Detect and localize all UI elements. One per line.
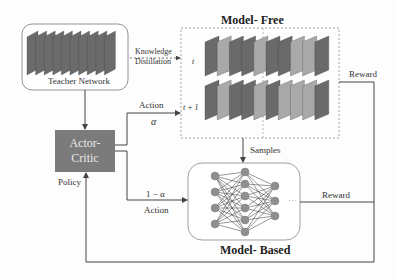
- neuron-node: [211, 204, 219, 212]
- feature-map-layer: [254, 36, 268, 76]
- feature-map-layer: [205, 36, 219, 76]
- feature-map-layer: [290, 80, 304, 120]
- feature-map-layer: [278, 80, 292, 120]
- feature-map-layer: [242, 80, 256, 120]
- row-t1-label: t + 1: [183, 104, 199, 112]
- row-t-label: t: [192, 58, 194, 66]
- action-upper-label: Action: [139, 101, 164, 110]
- feature-map-layer: [242, 36, 256, 76]
- model-free-layers: [205, 36, 329, 120]
- neuron-node: [241, 180, 249, 188]
- distillation-label-line1: Knowledge: [135, 48, 172, 56]
- feature-map-layer: [217, 36, 231, 76]
- neuron-node: [211, 220, 219, 228]
- neuron-node: [241, 204, 249, 212]
- feature-map-layer: [303, 80, 317, 120]
- teacher-network-label: Teacher Network: [48, 77, 110, 86]
- feature-map-layer: [229, 36, 243, 76]
- feature-map-layer: [266, 80, 280, 120]
- action-alpha-arrow: [115, 113, 180, 145]
- feature-map-layer: [278, 36, 292, 76]
- actor-critic-line2: Critic: [69, 151, 100, 166]
- feature-map-layer: [217, 80, 231, 120]
- actor-critic-line1: Actor-: [69, 136, 100, 151]
- neuron-node: [241, 192, 249, 200]
- reward-top-line: [339, 82, 374, 262]
- neuron-node: [241, 168, 249, 176]
- actor-critic-box: Actor- Critic: [55, 130, 115, 172]
- feature-map-layer: [290, 36, 304, 76]
- alpha-label: α: [151, 117, 156, 127]
- teacher-layers: [27, 31, 115, 75]
- feature-map-layer: [315, 80, 329, 120]
- samples-label: Samples: [250, 146, 281, 155]
- feature-map-layer: [254, 80, 268, 120]
- model-based-title: Model- Based: [220, 244, 290, 256]
- feature-map-layer: [104, 31, 115, 75]
- one-minus-alpha-label: 1 − α: [146, 190, 165, 199]
- neuron-node: [241, 228, 249, 236]
- neuron-node: [211, 188, 219, 196]
- model-free-title: Model- Free: [221, 14, 284, 26]
- feature-map-layer: [229, 80, 243, 120]
- neuron-node: [271, 182, 279, 190]
- neuron-node: [271, 212, 279, 220]
- policy-label: Policy: [58, 178, 81, 187]
- neuron-node: [211, 172, 219, 180]
- feature-map-layer: [266, 36, 280, 76]
- reward-top-label: Reward: [349, 70, 377, 79]
- reward-mid-label: Reward: [322, 191, 350, 200]
- diagram-canvas: Teacher Network Knowledge Distillation M…: [0, 0, 396, 278]
- neuron-node: [271, 197, 279, 205]
- distillation-label-line2: Distillation: [135, 58, 171, 66]
- nn-ellipsis: ···: [288, 196, 297, 205]
- action-lower-label: Action: [144, 206, 169, 215]
- neuron-node: [241, 216, 249, 224]
- feature-map-layer: [205, 80, 219, 120]
- feature-map-layer: [315, 36, 329, 76]
- feature-map-layer: [303, 36, 317, 76]
